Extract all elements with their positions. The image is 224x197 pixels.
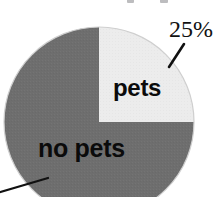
percent-callout-label: 25%	[169, 17, 213, 41]
pie-slice-label-pets: pets	[113, 76, 161, 100]
leader-line-pets	[169, 44, 184, 67]
pie-slice-label-no-pets: no pets	[38, 136, 125, 161]
pie-chart-figure: pets no pets 25%	[0, 0, 224, 197]
